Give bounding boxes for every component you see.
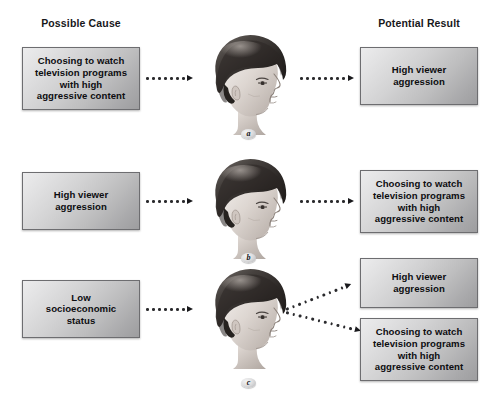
row-b-result-box: Choosing to watch television programs wi… xyxy=(360,170,478,233)
row-a-cause-text: Choosing to watch television programs wi… xyxy=(35,55,127,101)
row-c-result-lower-text: Choosing to watch television programs wi… xyxy=(373,326,465,372)
row-c-result-box-upper: High viewer aggression xyxy=(360,258,478,308)
row-a-cause-box: Choosing to watch television programs wi… xyxy=(22,47,140,110)
row-c-result-box-lower: Choosing to watch television programs wi… xyxy=(360,318,478,381)
column-header-potential-result: Potential Result xyxy=(360,17,478,29)
row-c-arrow-cause-to-head xyxy=(146,308,195,311)
row-a-result-text: High viewer aggression xyxy=(392,64,446,87)
column-header-possible-cause: Possible Cause xyxy=(22,17,140,29)
child-head-profile-icon-a xyxy=(200,28,296,136)
figure-canvas: Possible Cause Potential Result Choosing… xyxy=(0,0,501,405)
row-label-c-text: c xyxy=(247,379,251,387)
row-c-arrow-head-to-result-lower xyxy=(286,311,368,334)
child-head-profile-icon-b xyxy=(200,152,296,260)
row-label-b-text: b xyxy=(247,254,251,262)
row-b-arrow-head-to-result xyxy=(300,200,357,203)
row-b-arrow-cause-to-head xyxy=(146,200,195,203)
row-b-cause-text: High viewer aggression xyxy=(54,189,108,212)
row-a-arrow-head-to-result xyxy=(300,77,357,80)
row-label-a-text: a xyxy=(247,130,251,138)
row-c-cause-text: Low socioeconomic status xyxy=(46,292,117,327)
row-b-result-text: Choosing to watch television programs wi… xyxy=(373,178,465,224)
row-c-result-upper-text: High viewer aggression xyxy=(392,271,446,294)
row-label-c: c xyxy=(241,378,256,388)
row-label-a: a xyxy=(241,129,256,139)
row-b-cause-box: High viewer aggression xyxy=(22,172,140,230)
row-c-arrow-head-to-result-upper xyxy=(285,281,357,311)
child-head-profile-icon-c xyxy=(200,262,296,370)
row-a-arrow-cause-to-head xyxy=(146,77,195,80)
row-a-result-box: High viewer aggression xyxy=(360,47,478,105)
row-c-cause-box: Low socioeconomic status xyxy=(22,280,140,338)
